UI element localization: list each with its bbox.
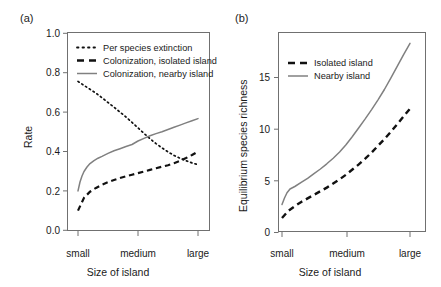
panel-a: (a) Rate 1.0 0.8 0.6 0.4 0.2 0.0 small m…	[0, 0, 220, 287]
panel-b: (b) Equilibrium species richness 15 10 5…	[220, 0, 441, 287]
series-per-species-extinction	[78, 81, 198, 164]
panel-b-x-ticks	[282, 232, 410, 238]
series-colonization-isolated-island	[78, 152, 198, 211]
panel-b-legend: Isolated island Nearby island	[288, 58, 373, 81]
legend-label-isolated-island: Isolated island	[314, 58, 373, 68]
figure-root: (a) Rate 1.0 0.8 0.6 0.4 0.2 0.0 small m…	[0, 0, 441, 287]
legend-label-per-species-extinction: Per species extinction	[103, 43, 192, 53]
legend-label-nearby-island: Nearby island	[314, 71, 370, 81]
legend-label-colonization-nearby-island: Colonization, nearby island	[103, 69, 213, 79]
series-isolated-island	[282, 109, 410, 218]
panel-a-y-ticks	[63, 33, 68, 230]
legend-label-colonization-isolated-island: Colonization, isolated island	[103, 56, 217, 66]
panel-b-y-ticks	[274, 78, 279, 233]
panel-a-legend: Per species extinction Colonization, iso…	[77, 43, 217, 79]
panel-a-x-ticks	[78, 231, 198, 237]
panel-a-plot: Per species extinction Colonization, iso…	[0, 0, 220, 287]
series-colonization-nearby-island	[78, 119, 198, 191]
panel-b-plot: Isolated island Nearby island	[220, 0, 441, 287]
